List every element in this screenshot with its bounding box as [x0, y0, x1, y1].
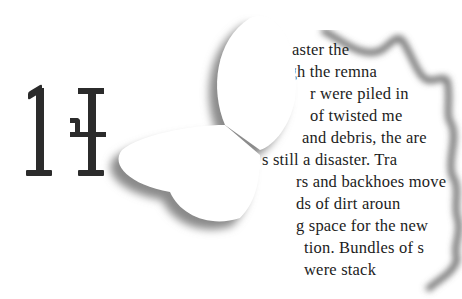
excerpt-line: ds of dirt aroun	[296, 194, 400, 214]
excerpt-line: r were piled in	[310, 84, 409, 104]
butterfly-icon	[100, 0, 300, 260]
excerpt-line: were stack	[304, 260, 376, 280]
excerpt-line: and debris, the are	[302, 128, 427, 148]
excerpt-line: of twisted me	[310, 106, 402, 126]
excerpt-line: tion. Bundles of s	[304, 238, 424, 258]
excerpt-line: g space for the new	[296, 216, 428, 236]
excerpt-line: aster the	[292, 40, 349, 60]
chapter-digit-one	[22, 84, 56, 176]
excerpt-line: rs and backhoes move	[296, 172, 446, 192]
chapter-number	[22, 84, 108, 176]
